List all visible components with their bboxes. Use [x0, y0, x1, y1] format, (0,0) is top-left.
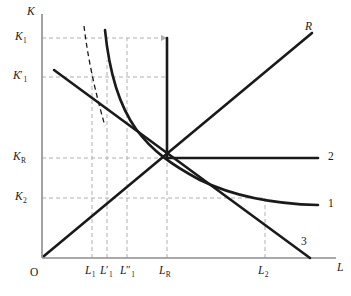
chart-canvas [0, 0, 351, 296]
economics-isoquant-chart: K L O K1 K′1 KR K2 L1 L′1 L″1 LR L2 R 2 [0, 0, 351, 296]
y-tick-k2: K2 [15, 191, 26, 203]
series-dashed-isoquant [84, 26, 105, 126]
origin-label: O [30, 267, 38, 279]
y-axis-label: K [27, 6, 35, 18]
series-ray-R [44, 33, 312, 256]
y-tick-k1: K1 [15, 31, 26, 43]
series-label-1: 1 [328, 198, 334, 210]
series-label-3: 3 [301, 236, 307, 248]
x-tick-l2: L2 [258, 265, 268, 277]
y-tick-k1-prime: K′1 [13, 70, 27, 82]
series-label-2: 2 [328, 151, 334, 163]
y-tick-kr: KR [13, 151, 26, 163]
x-tick-lr: LR [159, 265, 170, 277]
x-tick-l1-prime: L′1 [100, 265, 113, 277]
x-tick-l1: L1 [85, 265, 95, 277]
x-axis-label: L [337, 262, 343, 274]
series-label-R: R [305, 21, 312, 33]
x-tick-l1-dprime: L″1 [120, 265, 135, 277]
